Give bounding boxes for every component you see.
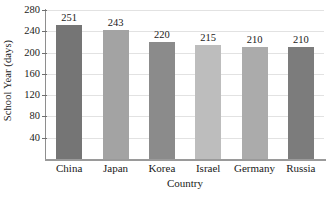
bar-value-label-china: 251: [49, 13, 89, 24]
bar-chart: School Year (days) 4080120160200240280 2…: [0, 0, 331, 197]
bar-japan: [103, 30, 129, 159]
bar-korea: [149, 42, 175, 159]
bar-value-label-korea: 220: [142, 30, 182, 41]
bar-value-label-russia: 210: [281, 35, 321, 46]
bar-value-label-japan: 243: [96, 18, 136, 29]
bar-russia: [288, 47, 314, 159]
bar-israel: [195, 45, 221, 159]
bar-value-label-israel: 215: [188, 33, 228, 44]
x-axis-label-russia: Russia: [271, 163, 331, 174]
bar-value-label-germany: 210: [235, 35, 275, 46]
bar-germany: [242, 47, 268, 159]
x-axis-line: [45, 159, 326, 161]
bar-china: [56, 25, 82, 159]
x-axis-title: Country: [46, 178, 324, 189]
